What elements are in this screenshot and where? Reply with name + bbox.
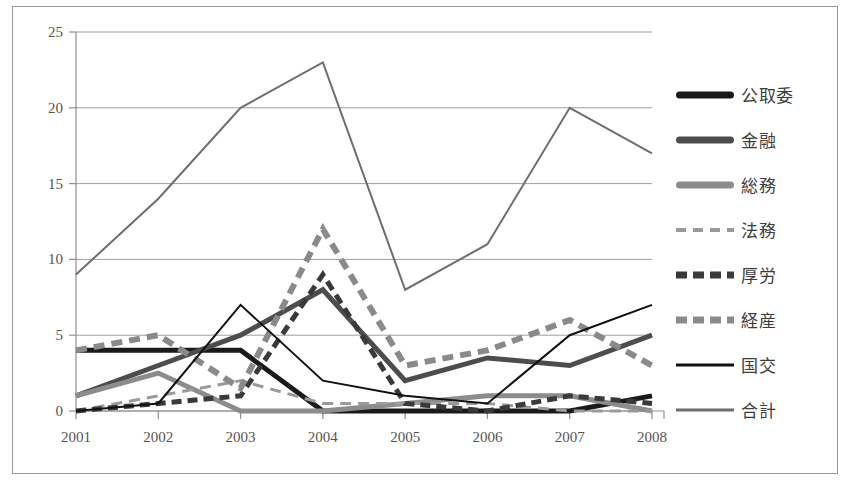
x-axis-tick-label: 2003: [226, 429, 256, 445]
x-axis-tick-label: 2004: [308, 429, 339, 445]
legend-item-label: 法務: [741, 217, 776, 242]
x-axis-tick-label: 2008: [637, 429, 667, 445]
chart-legend: 公取委金融総務法務厚労経産国交合計: [676, 72, 836, 432]
y-axis-tick-label: 15: [48, 176, 63, 192]
x-axis-tick-label: 2001: [61, 429, 91, 445]
y-axis-tick-label: 0: [56, 403, 64, 419]
legend-item[interactable]: 公取委: [676, 72, 836, 117]
legend-swatch-icon: [676, 88, 734, 102]
series-line-7: [76, 62, 652, 289]
legend-item[interactable]: 法務: [676, 207, 836, 252]
y-axis-tick-label: 5: [56, 327, 64, 343]
legend-swatch-icon: [676, 313, 734, 327]
legend-item[interactable]: 金融: [676, 117, 836, 162]
legend-item[interactable]: 合計: [676, 387, 836, 432]
y-axis-tick-label: 10: [48, 251, 63, 267]
x-axis-tick-label: 2005: [390, 429, 420, 445]
legend-item[interactable]: 経産: [676, 297, 836, 342]
legend-item-label: 経産: [741, 307, 776, 332]
legend-swatch-icon: [676, 178, 734, 192]
x-axis-tick-label: 2006: [472, 429, 503, 445]
legend-swatch-icon: [676, 403, 734, 417]
legend-item-label: 厚労: [741, 262, 776, 287]
legend-item[interactable]: 国交: [676, 342, 836, 387]
legend-swatch-icon: [676, 133, 734, 147]
legend-item[interactable]: 厚労: [676, 252, 836, 297]
legend-swatch-icon: [676, 223, 734, 237]
legend-item-label: 合計: [741, 397, 776, 422]
x-axis-tick-label: 2007: [555, 429, 586, 445]
legend-swatch-icon: [676, 358, 734, 372]
legend-item[interactable]: 総務: [676, 162, 836, 207]
y-axis-tick-label: 20: [48, 100, 63, 116]
legend-item-label: 金融: [741, 127, 776, 152]
legend-swatch-icon: [676, 268, 734, 282]
x-axis-tick-label: 2002: [143, 429, 173, 445]
legend-item-label: 総務: [741, 172, 776, 197]
legend-item-label: 公取委: [741, 82, 794, 107]
y-axis-tick-label: 25: [48, 24, 63, 40]
legend-item-label: 国交: [741, 352, 776, 377]
